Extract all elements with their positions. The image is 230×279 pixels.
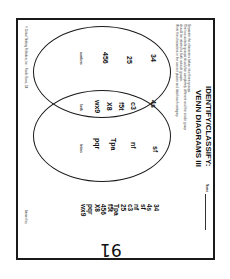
instruction-line-3: should be related to both outside groups… xyxy=(179,24,183,82)
name-underline[interactable] xyxy=(205,194,206,230)
name-label: Name xyxy=(205,184,209,192)
venn-outside-item: sf xyxy=(152,146,159,152)
venn-left-item: 25 xyxy=(126,56,133,64)
word-list: 34 4s sf nf c3 25 Tpa f5t 456 X8 pqr wx9 xyxy=(80,204,159,216)
word-list-item: pqr xyxy=(86,204,93,216)
word-list-item: sf xyxy=(139,204,146,216)
worksheet-frame: IDENTIFY/CLASSIFY: VENN DIAGRAMS III Nam… xyxy=(16,18,215,260)
footer-answer-key: Answer Key xyxy=(24,210,27,224)
venn-both-item: wx9 xyxy=(94,100,101,113)
word-list-item: wx9 xyxy=(80,204,87,216)
word-list-item: 25 xyxy=(119,204,126,216)
intersection-label: both xyxy=(79,104,83,111)
venn-both-item: 4s xyxy=(150,100,157,108)
venn-both-item: f5t xyxy=(118,102,125,111)
venn-right-item: Tpa xyxy=(110,138,117,150)
worksheet-title-line2: VENN DIAGRAMS III xyxy=(194,90,203,167)
page-number: 91 xyxy=(100,240,122,260)
venn-left-item: 456 xyxy=(102,52,109,64)
word-list-item: f5t xyxy=(106,204,113,216)
venn-both-item: c3 xyxy=(130,102,137,110)
instruction-line-1: Separate the characters below into three… xyxy=(187,24,191,93)
instruction-line-4: Write the characters in the correct plac… xyxy=(175,24,179,117)
worksheet-title-line1: IDENTIFY/CLASSIFY: xyxy=(204,86,213,166)
venn-right-item: nf xyxy=(130,142,137,149)
word-list-item: c3 xyxy=(126,204,133,216)
instruction-line-2: The two outside groups should be complet… xyxy=(183,24,187,130)
left-circle-label: numbers xyxy=(79,52,83,65)
right-circle-label: letters xyxy=(79,144,83,153)
venn-both-item: X8 xyxy=(106,102,113,111)
word-list-item: 34 xyxy=(152,204,159,216)
venn-left-item: 34 xyxy=(150,54,157,62)
worksheet-page-rotated: IDENTIFY/CLASSIFY: VENN DIAGRAMS III Nam… xyxy=(18,20,217,262)
footer-copyright: © Critical Thinking Publishers, Inc. · P… xyxy=(24,26,27,88)
venn-right-item: pqr xyxy=(94,138,101,149)
word-list-item: X8 xyxy=(93,204,100,216)
